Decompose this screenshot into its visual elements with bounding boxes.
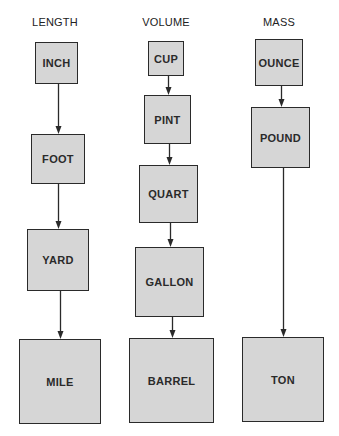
arrow-head-icon (56, 126, 62, 134)
unit-box-barrel: BARREL (129, 338, 214, 423)
unit-hierarchy-diagram: LENGTH VOLUME MASS INCH FOOT YARD MILE C… (0, 0, 339, 436)
unit-label: TON (271, 374, 295, 386)
column-title-length: LENGTH (32, 16, 78, 28)
unit-label: BARREL (148, 375, 196, 387)
unit-box-quart: QUART (139, 165, 198, 223)
unit-box-mile: MILE (19, 339, 101, 424)
unit-box-pint: PINT (144, 95, 191, 144)
unit-label: GALLON (145, 276, 193, 288)
arrow-head-icon (167, 157, 173, 165)
unit-label: FOOT (42, 153, 74, 165)
unit-box-pound: POUND (251, 107, 310, 168)
unit-box-ton: TON (242, 337, 324, 422)
unit-box-gallon: GALLON (135, 247, 204, 317)
arrow-head-icon (279, 99, 285, 107)
arrow-head-icon (166, 87, 172, 95)
unit-label: QUART (148, 188, 189, 200)
unit-box-inch: INCH (35, 42, 78, 84)
unit-label: POUND (260, 132, 301, 144)
unit-box-yard: YARD (27, 229, 89, 291)
unit-label: CUP (154, 53, 178, 65)
unit-label: MILE (46, 376, 73, 388)
unit-label: PINT (154, 114, 180, 126)
unit-label: OUNCE (258, 57, 299, 69)
unit-box-ounce: OUNCE (255, 39, 303, 86)
arrow-head-icon (56, 221, 62, 229)
unit-label: YARD (42, 254, 73, 266)
unit-box-foot: FOOT (31, 134, 85, 184)
column-title-volume: VOLUME (142, 16, 190, 28)
arrow-head-icon (168, 239, 174, 247)
unit-box-cup: CUP (148, 41, 184, 76)
arrow-head-icon (170, 330, 176, 338)
column-title-mass: MASS (263, 16, 295, 28)
arrow-head-icon (281, 329, 287, 337)
arrow-head-icon (58, 331, 64, 339)
unit-label: INCH (42, 57, 70, 69)
